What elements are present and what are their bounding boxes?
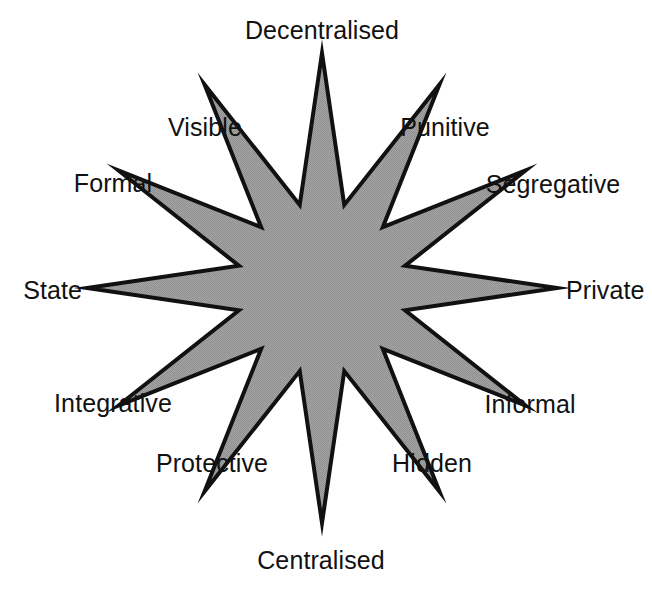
- axis-label-integrative: Integrative: [54, 389, 172, 418]
- axis-label-visible: Visible: [168, 113, 242, 142]
- axis-label-state: State: [23, 276, 82, 305]
- axis-label-private: Private: [566, 276, 645, 305]
- axis-label-punitive: Punitive: [400, 113, 490, 142]
- twelve-point-star-shape: [0, 0, 652, 592]
- axis-label-hidden: Hidden: [392, 449, 472, 478]
- axis-label-informal: Informal: [484, 390, 575, 419]
- axis-label-segregative: Segregative: [486, 170, 621, 199]
- axis-label-formal: Formal: [74, 169, 152, 198]
- axis-label-centralised: Centralised: [257, 546, 385, 575]
- axis-label-protective: Protective: [156, 449, 268, 478]
- star-diagram: Decentralised Punitive Segregative Priva…: [0, 0, 652, 592]
- axis-label-decentralised: Decentralised: [245, 16, 399, 45]
